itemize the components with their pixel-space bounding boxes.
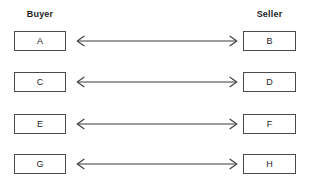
column-header-seller: Seller: [243, 9, 296, 20]
node-box-right-2[interactable]: D: [243, 72, 296, 92]
double-arrow-icon: [74, 75, 240, 89]
node-box-right-1[interactable]: B: [243, 31, 296, 51]
connector-arrow-2: [74, 75, 240, 89]
connector-arrow-3: [74, 117, 240, 131]
node-box-left-3[interactable]: E: [14, 114, 66, 134]
double-arrow-icon: [74, 157, 240, 171]
column-header-buyer: Buyer: [14, 9, 66, 20]
node-box-left-1[interactable]: A: [14, 31, 66, 51]
node-box-left-4[interactable]: G: [14, 154, 66, 174]
connector-arrow-1: [74, 34, 240, 48]
double-arrow-icon: [74, 117, 240, 131]
double-arrow-icon: [74, 34, 240, 48]
diagram-canvas: Buyer Seller A B C D E F G: [0, 0, 311, 186]
connector-arrow-4: [74, 157, 240, 171]
node-box-right-3[interactable]: F: [243, 114, 296, 134]
node-box-right-4[interactable]: H: [243, 154, 296, 174]
node-box-left-2[interactable]: C: [14, 72, 66, 92]
